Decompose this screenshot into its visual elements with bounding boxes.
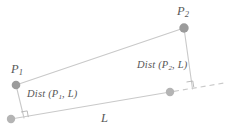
- line-l-end-dot: [166, 88, 174, 96]
- label-distance-p2-to-l: Dist (P2, L): [137, 60, 187, 72]
- right-angle-marker-p2: [187, 81, 194, 87]
- line-l-start-dot: [7, 115, 15, 123]
- geometry-diagram: P1 P2 Dist (P1, L) Dist (P2, L) L: [0, 0, 229, 134]
- label-distance-p2-suffix: , L): [172, 59, 187, 70]
- segment-p1-p2: [16, 28, 184, 85]
- label-distance-p1-suffix: , L): [62, 88, 77, 99]
- dashed-extension-line-l: [174, 83, 224, 91]
- point-p2-dot: [179, 23, 188, 32]
- perpendicular-segment-p1: [16, 85, 24, 118]
- label-point-p1-base: P: [11, 62, 19, 76]
- label-point-p2-subscript: 2: [185, 9, 189, 19]
- label-distance-p1-prefix: Dist (P: [27, 88, 58, 99]
- label-point-p2-base: P: [177, 4, 185, 18]
- diagram-canvas: [0, 0, 229, 134]
- label-point-p2: P2: [177, 5, 189, 19]
- point-p1-dot: [12, 81, 21, 90]
- label-distance-p2-prefix: Dist (P: [137, 59, 168, 70]
- label-distance-p1-to-l: Dist (P1, L): [27, 89, 77, 101]
- label-point-p1: P1: [11, 63, 23, 77]
- label-line-l: L: [101, 112, 108, 125]
- label-point-p1-subscript: 1: [19, 67, 23, 77]
